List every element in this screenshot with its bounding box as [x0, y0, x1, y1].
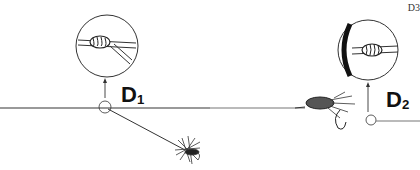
d2-knot-marker [366, 115, 376, 125]
d1-label: D1 [121, 82, 144, 108]
small-fly-icon [175, 136, 200, 164]
knot-diagram [0, 0, 420, 170]
d2-inset-icon [338, 20, 398, 80]
d2-label: D2 [386, 87, 409, 113]
d1-knot-marker [99, 101, 111, 113]
d1-inset-icon [76, 15, 138, 77]
dropper-line [108, 109, 185, 150]
d2-arrow-icon [366, 82, 370, 87]
d1-arrow-icon [103, 78, 107, 83]
big-fly-icon [295, 92, 355, 129]
